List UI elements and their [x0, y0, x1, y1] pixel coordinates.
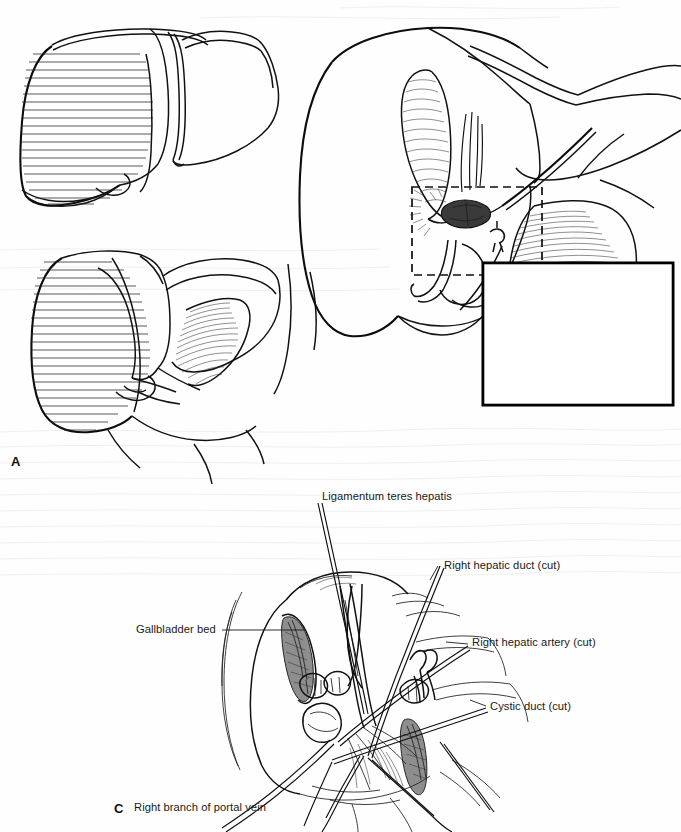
panel-c-traction-sutures [222, 503, 494, 832]
panel-a-lower-wedge-hatching [176, 303, 238, 384]
label-cystic-duct-cut: Cystic duct (cut) [490, 700, 571, 712]
label-right-hepatic-duct-cut: Right hepatic duct (cut) [444, 559, 560, 571]
label-gallbladder-bed: Gallbladder bed [136, 623, 216, 635]
panel-b-group [300, 28, 681, 426]
panel-b-ligament-texture [403, 80, 449, 202]
panel-c-group [222, 503, 528, 832]
panel-letter-c: C [114, 801, 124, 816]
panel-a-lower-hatching [31, 262, 150, 430]
panel-a-group [20, 29, 316, 484]
panel-a-upper-liver [20, 29, 278, 206]
label-right-hepatic-artery-cut: Right hepatic artery (cut) [472, 636, 596, 648]
label-right-branch-of-portal-vein: Right branch of portal vein [134, 801, 266, 813]
inset-detail-box [483, 263, 681, 425]
panel-b-suture-strands [461, 112, 482, 192]
figure-page: A C Ligamentum teres hepatis Right hepat… [0, 0, 681, 832]
panel-a-lower-liver [31, 251, 316, 468]
panel-letter-a: A [11, 454, 21, 469]
anatomy-figure-canvas [0, 0, 681, 832]
label-ligamentum-teres-hepatis: Ligamentum teres hepatis [322, 490, 452, 502]
